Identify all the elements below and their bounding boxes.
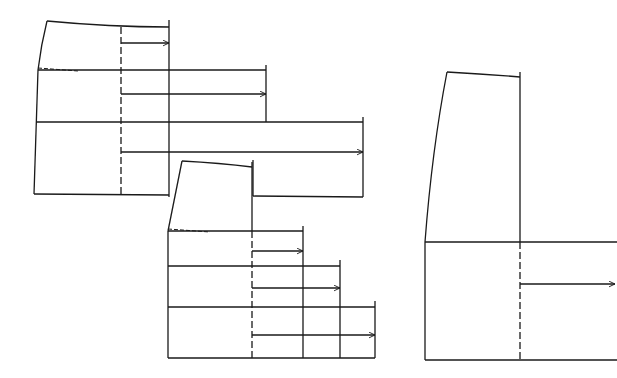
waist-line: [182, 161, 252, 167]
side-seam: [34, 70, 38, 194]
piece1-hem-extension: [253, 196, 363, 197]
hip-curve: [38, 21, 47, 70]
hip-curve: [168, 161, 182, 231]
pattern-diagram-canvas: [0, 0, 617, 378]
side-curve: [425, 72, 447, 242]
waist-line: [447, 72, 520, 77]
skirt-slash-spread-diagram: [0, 0, 617, 378]
pattern-piece-full-spread: [425, 72, 617, 360]
hem-line: [34, 194, 169, 195]
pattern-piece-partial-spread: [168, 160, 375, 358]
waist-line: [47, 21, 169, 27]
pattern-piece-original: [34, 20, 363, 197]
